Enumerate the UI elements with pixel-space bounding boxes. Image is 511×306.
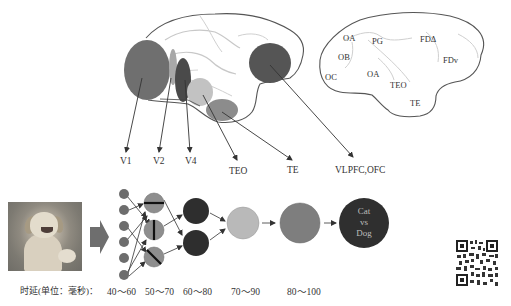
label-fdv: FDv [443, 56, 458, 65]
latency-layer-4: 70～90 [231, 288, 260, 298]
layer-5-node [280, 203, 320, 243]
output-label: Cat vs Dog [339, 206, 389, 239]
ventral-stream-diagram: V1 V2 V4 TEO TE VLPFC,OFC OA PG FDΔ OB F… [0, 0, 511, 306]
latency-caption: 时延(单位：毫秒)： [20, 287, 98, 296]
label-fd-delta: FDΔ [420, 35, 436, 44]
label-vlpfc-ofc: VLPFC,OFC [335, 166, 385, 176]
label-oc: OC [325, 73, 337, 82]
layer-1-nodes [119, 189, 129, 280]
region-v1 [124, 40, 170, 100]
output-label-vs: vs [339, 217, 389, 228]
region-vlpfc-ofc [249, 43, 291, 83]
label-te: TE [287, 166, 299, 176]
right-brain [320, 13, 484, 117]
layer-3-nodes [183, 198, 209, 256]
label-oa-top: OA [343, 34, 355, 43]
label-te-right: TE [410, 99, 420, 108]
label-oa-bottom: OA [367, 70, 379, 79]
qr-code [455, 239, 499, 287]
label-v1: V1 [120, 157, 132, 167]
left-brain [124, 14, 303, 123]
label-v4: V4 [185, 157, 197, 167]
layer-4-node [227, 207, 259, 239]
latency-layer-2: 50～70 [145, 288, 174, 298]
label-teo: TEO [229, 167, 247, 177]
latency-layer-1: 40～60 [107, 288, 136, 298]
label-pg: PG [372, 37, 383, 46]
output-label-dog: Dog [339, 228, 389, 239]
label-ob: OB [338, 53, 350, 62]
latency-layer-3: 60～80 [183, 288, 212, 298]
label-v2: V2 [153, 157, 165, 167]
input-arrow-icon [90, 220, 109, 254]
dog-input-image [8, 202, 82, 271]
latency-layer-5: 80～100 [287, 288, 321, 298]
layer-2-nodes [144, 193, 164, 267]
output-label-cat: Cat [339, 206, 389, 217]
label-teo-right: TEO [390, 81, 407, 90]
